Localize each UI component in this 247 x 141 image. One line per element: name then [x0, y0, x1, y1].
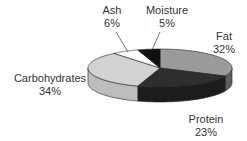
label-fat-pct: 32% — [207, 43, 241, 56]
label-protein-name: Protein — [184, 113, 228, 126]
label-ash-pct: 6% — [97, 17, 127, 30]
label-fat-name: Fat — [207, 30, 241, 43]
label-moisture-pct: 5% — [141, 17, 193, 30]
leader-line-ash — [116, 32, 128, 52]
label-moisture-name: Moisture — [141, 4, 193, 17]
label-protein-pct: 23% — [184, 126, 228, 139]
label-ash-name: Ash — [97, 4, 127, 17]
label-ash: Ash 6% — [97, 4, 127, 30]
label-carbohydrates: Carbohydrates 34% — [10, 72, 90, 98]
label-protein: Protein 23% — [184, 113, 228, 139]
label-carbohydrates-name: Carbohydrates — [10, 72, 90, 85]
leader-line-moisture — [152, 32, 160, 50]
label-carbohydrates-pct: 34% — [10, 85, 90, 98]
label-moisture: Moisture 5% — [141, 4, 193, 30]
label-fat: Fat 32% — [207, 30, 241, 56]
